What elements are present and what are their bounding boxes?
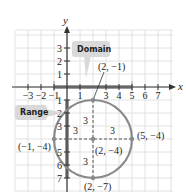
x-tick-label: 4 xyxy=(117,90,122,101)
radius-label-up: 3 xyxy=(83,115,88,126)
y-tick-label: 1 xyxy=(57,69,62,80)
y-tick-label: 2 xyxy=(57,56,62,67)
y-axis-label: y xyxy=(62,14,68,26)
x-tick-label: −2 xyxy=(36,90,47,101)
point-label-bottom: (2, −7) xyxy=(84,181,111,192)
point-marker xyxy=(91,98,95,102)
radius-label-left: 3 xyxy=(73,125,78,136)
point-marker xyxy=(91,176,95,180)
y-tick-label: 5 xyxy=(57,147,62,158)
radius-labels: 3 3 3 3 xyxy=(73,115,115,167)
domain-callout-pointer xyxy=(84,56,91,78)
range-callout-label: Range xyxy=(20,108,49,117)
y-tick-label: 3 xyxy=(57,43,62,54)
x-tick-label: 3 xyxy=(104,90,109,101)
point-marker xyxy=(91,137,95,141)
point-label-center: (2, −4) xyxy=(95,145,122,157)
x-tick-label: −3 xyxy=(23,90,34,101)
point-marker xyxy=(52,137,56,141)
x-axis-label: x xyxy=(177,80,183,92)
y-tick-label: 7 xyxy=(57,173,62,184)
radius-label-down: 3 xyxy=(83,156,88,167)
x-tick-label: 5 xyxy=(130,90,135,101)
point-label-left: (−1, −4) xyxy=(18,141,51,153)
radius-label-right: 3 xyxy=(110,125,115,136)
x-axis-arrow xyxy=(169,84,176,90)
point-label-right: (5, −4) xyxy=(137,130,164,142)
x-tick-label: 7 xyxy=(156,90,161,101)
y-tick-label: 3 xyxy=(57,121,62,132)
point-label-top: (2, −1) xyxy=(98,61,125,73)
x-tick-label: 1 xyxy=(78,90,83,101)
domain-callout-label: Domain xyxy=(77,45,112,54)
circle-domain-range-figure: −3−2−1134567321123567 y x Domain Range 3… xyxy=(0,0,186,192)
point-marker xyxy=(130,137,134,141)
y-tick-label: 6 xyxy=(57,160,62,171)
x-tick-label: 6 xyxy=(143,90,148,101)
y-tick-label: 1 xyxy=(57,95,62,106)
